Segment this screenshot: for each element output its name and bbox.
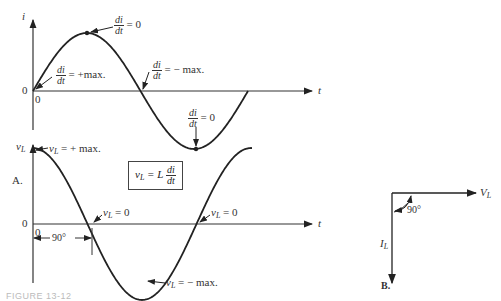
vl-min-annotation: vL = − max. [166,276,218,290]
trough-annotation: didt = 0 [188,108,215,129]
part-a-label: A. [12,174,23,186]
phasor-il-label: IL [380,237,388,251]
vl-zero2-annotation: vL = 0 [211,206,238,220]
bottom-y-axis-label: vL [16,140,25,154]
peak-annotation: didt = 0 [114,15,141,36]
zero1-pointer [94,215,102,222]
cross-pointer [143,72,149,89]
top-x-axis-label: t [318,84,321,96]
phase-shift-label: 90° [52,232,66,243]
phasor-vl-label: VL [480,186,491,200]
top-y-axis-label: i [22,10,25,22]
top-origin-x: 0 [35,93,41,105]
peak-dot [85,31,89,35]
bottom-origin-x: 0 [35,226,41,238]
part-b-label: B. [381,280,390,291]
top-origin-y: 0 [22,84,28,96]
bottom-origin-y: 0 [22,217,28,229]
phasor-angle-label: 90° [407,204,421,215]
cross-annotation: didt = − max. [152,60,204,81]
peak-pointer [91,27,113,32]
formula-box: vL = L didt [128,161,183,190]
vl-max-annotation: vL = + max. [49,142,101,156]
start-annotation: didt = +max. [56,65,105,86]
zero2-pointer [200,215,210,222]
bottom-x-axis-label: t [318,217,321,229]
figure-caption: FIGURE 13-12 [6,291,72,301]
vl-zero1-annotation: vL = 0 [103,206,130,220]
min-pointer [148,281,165,283]
trough-dot [194,147,198,151]
